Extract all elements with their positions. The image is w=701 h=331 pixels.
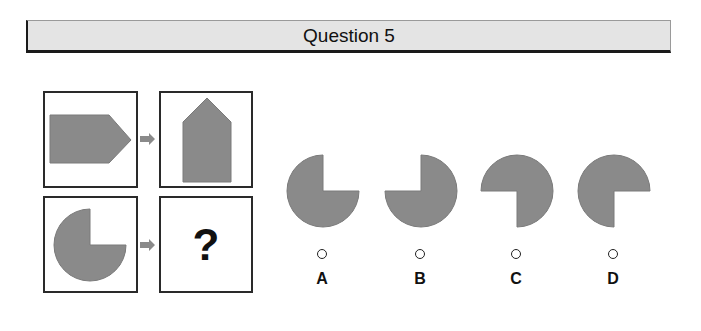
pentagon-up-shape (161, 93, 255, 190)
option-c-label: C (501, 270, 531, 288)
option-b-label: B (405, 270, 435, 288)
option-b-shape (383, 153, 459, 229)
option-c[interactable]: C (479, 153, 555, 293)
option-d-label: D (598, 270, 628, 288)
option-c-radio[interactable] (511, 249, 521, 259)
question-title: Question 5 (303, 25, 395, 47)
three-quarter-circle-shape (45, 198, 140, 295)
option-a-label: A (307, 270, 337, 288)
option-a-radio[interactable] (317, 249, 327, 259)
example-result-box (159, 91, 253, 188)
pentagon-right-shape (45, 93, 140, 190)
question-source-box (43, 196, 138, 293)
option-a[interactable]: A (285, 153, 361, 293)
option-c-shape (479, 153, 555, 229)
option-a-shape (285, 153, 361, 229)
option-d-shape (576, 153, 652, 229)
option-b[interactable]: B (383, 153, 459, 293)
option-b-radio[interactable] (415, 249, 425, 259)
example-source-box (43, 91, 138, 188)
option-d[interactable]: D (576, 153, 652, 293)
arrow-right-icon (140, 239, 156, 251)
arrow-right-icon (140, 133, 156, 145)
question-mark: ? (161, 198, 251, 291)
question-header: Question 5 (26, 20, 671, 53)
question-answer-box: ? (159, 196, 253, 293)
option-d-radio[interactable] (608, 249, 618, 259)
